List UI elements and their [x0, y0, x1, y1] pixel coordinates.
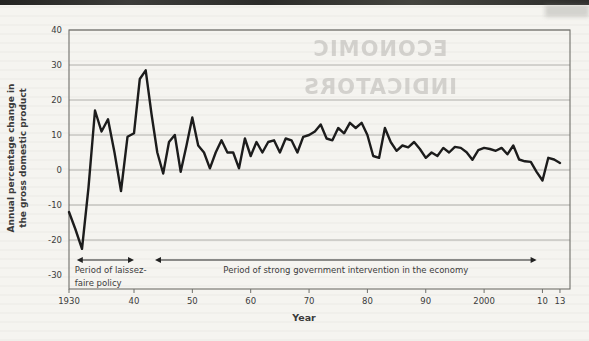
x-axis-title: Year [291, 312, 316, 323]
scanned-textbook-page: { "page": { "kind": "scanned textbook fi… [0, 0, 589, 341]
annotation-line-1: Period of laissez- [75, 265, 147, 275]
y-tick-label: -10 [48, 200, 62, 210]
x-tick-label: 1930 [58, 296, 80, 306]
x-tick-label: 80 [362, 296, 373, 306]
y-tick-label: -20 [48, 235, 62, 245]
arrowhead-right [128, 257, 134, 263]
plot-frame [69, 30, 570, 289]
y-axis-title-line2: the gross domestic product [18, 87, 28, 227]
x-tick-label: 40 [129, 296, 140, 306]
gdp-line [69, 70, 560, 249]
arrowhead-right [531, 257, 537, 263]
x-tick-label: 50 [187, 296, 198, 306]
y-tick-label: 10 [51, 130, 62, 140]
x-tick-label: 90 [420, 296, 431, 306]
y-tick-label: 30 [51, 60, 62, 70]
y-tick-label: 0 [57, 165, 62, 175]
x-tick-label: 70 [304, 296, 315, 306]
x-tick-label: 2000 [473, 296, 495, 306]
y-tick-label: -30 [48, 270, 62, 280]
x-tick-label: 13 [555, 296, 566, 306]
annotation-line-1: faire policy [75, 278, 122, 288]
y-axis-title-line1: Annual percentage change in [6, 84, 16, 233]
x-tick-label: 10 [537, 296, 548, 306]
annotation-line-2: Period of strong government intervention… [223, 265, 468, 275]
y-tick-label: 40 [51, 25, 62, 35]
arrowhead-left [155, 257, 161, 263]
y-tick-label: 20 [51, 95, 62, 105]
gdp-line-chart: 403020100-10-20-301930405060708090200010… [0, 0, 589, 341]
x-tick-label: 60 [245, 296, 256, 306]
arrowhead-left [77, 257, 83, 263]
